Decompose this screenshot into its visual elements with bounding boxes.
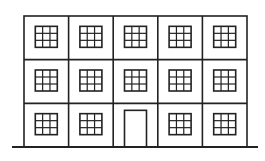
window [80, 70, 102, 91]
window [125, 26, 147, 47]
door-group [125, 110, 147, 147]
window [169, 70, 191, 91]
window [214, 114, 236, 135]
window [169, 114, 191, 135]
window [35, 114, 57, 135]
window [214, 70, 236, 91]
window [35, 26, 57, 47]
door [125, 110, 147, 147]
building-facade-diagram [0, 0, 265, 161]
window [169, 26, 191, 47]
window [125, 70, 147, 91]
window [35, 70, 57, 91]
window [214, 26, 236, 47]
window [80, 26, 102, 47]
windows-group [35, 26, 235, 134]
window [80, 114, 102, 135]
